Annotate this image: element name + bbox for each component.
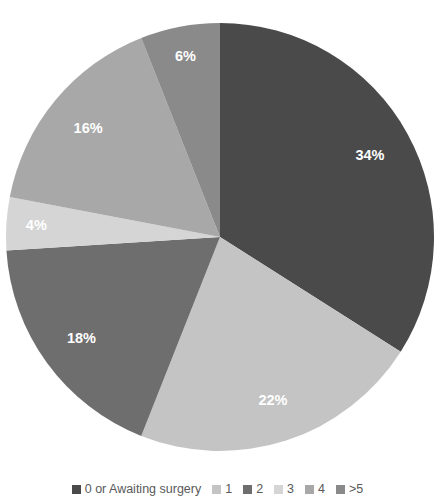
legend-item[interactable]: 3 [274, 483, 294, 496]
pie-slice-label: 34% [355, 147, 384, 163]
pie-slice-label: 6% [175, 48, 196, 64]
legend-item-label: 4 [318, 483, 325, 496]
legend-item-label: 0 or Awaiting surgery [85, 483, 202, 496]
legend-swatch-icon [212, 485, 221, 494]
legend-swatch-icon [274, 485, 283, 494]
legend-item[interactable]: 2 [243, 483, 263, 496]
legend-swatch-icon [305, 485, 314, 494]
legend-item[interactable]: 1 [212, 483, 232, 496]
legend-item-label: 1 [225, 483, 232, 496]
pie-chart: 34%22%18%4%16%6% 0 or Awaiting surgery12… [0, 0, 435, 501]
pie-slice-label: 18% [67, 330, 96, 346]
legend-swatch-icon [72, 485, 81, 494]
pie-svg: 34%22%18%4%16%6% [0, 10, 435, 468]
legend-swatch-icon [243, 485, 252, 494]
pie-slice-label: 4% [26, 217, 47, 233]
legend-swatch-icon [336, 485, 345, 494]
pie-plot-area: 34%22%18%4%16%6% [0, 10, 435, 468]
pie-slice-label: 22% [258, 392, 287, 408]
legend-item[interactable]: >5 [336, 483, 363, 496]
legend-item-label: >5 [349, 483, 363, 496]
legend-item-label: 3 [287, 483, 294, 496]
legend-item[interactable]: 0 or Awaiting surgery [72, 483, 202, 496]
pie-slice-label: 16% [74, 120, 103, 136]
legend-item-label: 2 [256, 483, 263, 496]
pie-slice-group [6, 23, 434, 451]
chart-legend: 0 or Awaiting surgery1234>5 [0, 477, 435, 501]
legend-item[interactable]: 4 [305, 483, 325, 496]
